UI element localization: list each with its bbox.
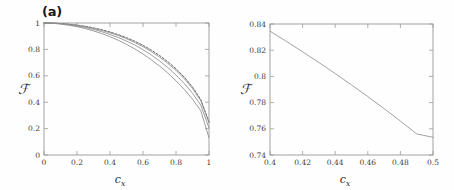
- panel-a-xtick-3: 0.6: [137, 158, 149, 167]
- panel-a-xtick-1: 0.2: [71, 158, 83, 167]
- curve-dashed-upper: [44, 23, 209, 122]
- panel-a-ylabel: ℱ: [18, 81, 32, 97]
- panel-a-ytick-5: 1: [35, 19, 40, 28]
- panel-a-ytick-0: 0: [35, 151, 40, 160]
- panel-a: (a): [0, 0, 227, 190]
- panel-b-xtick-3: 0.46: [359, 158, 376, 167]
- panel-b-xtick-1: 0.42: [294, 158, 311, 167]
- panel-b-ylabel: ℱ: [240, 81, 254, 97]
- panel-b-curves: [270, 31, 433, 137]
- panel-a-plot: 0 0.2 0.4 0.6 0.8 1 0 0.2 0.4 0.6 0.8 1 …: [0, 0, 227, 190]
- panel-b-axes-frame: [270, 24, 433, 155]
- panel-a-xtick-0: 0: [42, 158, 47, 167]
- panel-a-xtick-2: 0.4: [104, 158, 116, 167]
- panel-a-xtick-5: 1: [207, 158, 212, 167]
- panel-b-ytick-4: 0.82: [249, 46, 266, 55]
- panel-b-x-ticks: [270, 24, 433, 155]
- panel-b-xlabel: cx: [340, 173, 351, 188]
- panel-b-xtick-2: 0.44: [327, 158, 344, 167]
- panel-b-plot: 0.4 0.42 0.44 0.46 0.48 0.5 0.74 0.76 0.…: [227, 0, 454, 190]
- panel-b-ytick-5: 0.84: [249, 20, 266, 29]
- panel-a-ytick-4: 0.8: [28, 45, 40, 54]
- panel-a-xlabel: cx: [115, 173, 126, 188]
- panel-b-ytick-2: 0.78: [249, 98, 266, 107]
- panel-a-xtick-4: 0.8: [170, 158, 182, 167]
- panel-a-label: (a): [42, 4, 62, 19]
- panel-b-xtick-4: 0.48: [392, 158, 409, 167]
- panel-b-ytick-0: 0.74: [249, 151, 266, 160]
- panel-a-curves: [44, 23, 209, 138]
- panel-b-y-ticks: [270, 24, 433, 155]
- panel-a-ytick-2: 0.4: [28, 98, 40, 107]
- panel-a-ytick-3: 0.6: [28, 71, 40, 80]
- panel-a-ytick-1: 0.2: [28, 124, 40, 133]
- panel-b-ytick-3: 0.8: [254, 72, 266, 81]
- panel-b-ytick-1: 0.76: [249, 124, 266, 133]
- panel-b: (b): [227, 0, 454, 190]
- curve-solid-lower: [44, 23, 209, 138]
- figure-container: (a): [0, 0, 454, 190]
- curve-zoom: [270, 31, 433, 137]
- panel-b-xtick-5: 0.5: [427, 158, 439, 167]
